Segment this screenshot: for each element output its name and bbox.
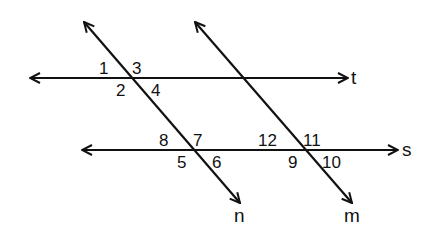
angle-label-2: 2 xyxy=(116,81,125,100)
angle-label-7: 7 xyxy=(193,131,202,150)
line-label-s: s xyxy=(402,139,412,160)
line-label-n: n xyxy=(234,205,245,226)
lines-layer xyxy=(30,22,398,203)
labels-layer: tsnm132487561211910 xyxy=(99,59,412,226)
angle-label-5: 5 xyxy=(177,153,186,172)
line-label-t: t xyxy=(351,67,357,88)
angle-label-9: 9 xyxy=(288,153,297,172)
angle-label-3: 3 xyxy=(132,59,141,78)
line-n xyxy=(84,22,240,203)
angle-label-1: 1 xyxy=(99,59,108,78)
angle-label-10: 10 xyxy=(322,153,341,172)
line-m xyxy=(195,22,352,203)
angle-label-6: 6 xyxy=(212,153,221,172)
angle-label-8: 8 xyxy=(159,131,168,150)
parallel-lines-diagram: tsnm132487561211910 xyxy=(0,0,438,248)
angle-label-11: 11 xyxy=(303,131,321,150)
angle-label-12: 12 xyxy=(258,131,277,150)
line-label-m: m xyxy=(344,205,360,226)
angle-label-4: 4 xyxy=(151,81,160,100)
